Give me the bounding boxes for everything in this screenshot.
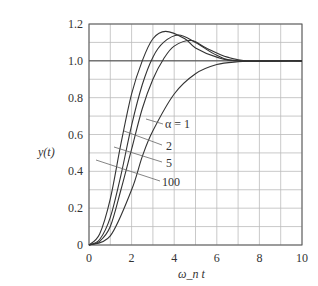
y-axis-label: y(t) (37, 145, 55, 159)
x-tick-label: 10 (296, 251, 308, 265)
x-tick-label: 6 (214, 251, 220, 265)
annotation-leader (114, 147, 162, 162)
tick-labels: 024681000.20.40.60.81.01.2 (68, 17, 308, 265)
x-axis-label: ω_n t (178, 267, 205, 281)
x-tick-label: 4 (171, 251, 177, 265)
annotation-label: 100 (162, 175, 180, 189)
annotation-label: α = 1 (165, 117, 190, 131)
grid (89, 24, 302, 245)
annotation-label: 5 (166, 156, 172, 170)
y-tick-label: 0.8 (68, 91, 83, 105)
y-tick-label: 0.4 (68, 164, 83, 178)
x-tick-label: 0 (86, 251, 92, 265)
x-tick-label: 2 (129, 251, 135, 265)
annotation-leader (146, 119, 163, 124)
annotation-label: 2 (166, 139, 172, 153)
step-response-chart: 024681000.20.40.60.81.01.2 α = 125100 y(… (0, 0, 318, 286)
annotation-leader (124, 131, 162, 145)
y-tick-label: 0.2 (68, 201, 83, 215)
y-tick-label: 1.2 (68, 17, 83, 31)
y-tick-label: 1.0 (68, 54, 83, 68)
x-tick-label: 8 (256, 251, 262, 265)
y-tick-label: 0.6 (68, 128, 83, 142)
y-tick-label: 0 (77, 238, 83, 252)
